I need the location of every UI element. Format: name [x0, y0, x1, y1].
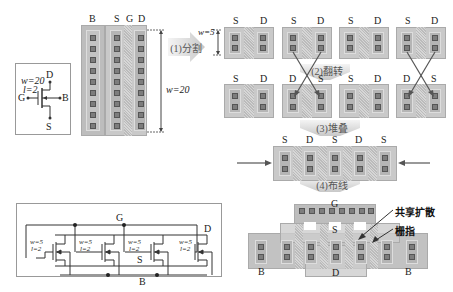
- schematic-box: G D S B w=5 l=2 w=5 l=2 w=5 l=2 w=5 l=2: [16, 203, 222, 277]
- schematic-drain-label: D: [204, 224, 211, 234]
- schematic-t4-l: l=2: [180, 244, 190, 254]
- schematic-t2-l: l=2: [80, 244, 90, 254]
- schematic-gate-label: G: [116, 213, 123, 223]
- schematic-source-label: S: [137, 255, 143, 265]
- schematic-t1-l: l=2: [31, 244, 41, 254]
- schematic-t3-l: l=2: [129, 244, 139, 254]
- schematic-body-label: B: [139, 277, 146, 287]
